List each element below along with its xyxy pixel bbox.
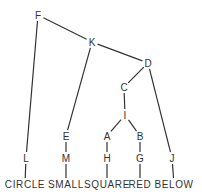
edge-i-a <box>111 120 121 132</box>
tree-node-k: K <box>89 37 96 48</box>
tree-node-e: E <box>63 131 70 142</box>
edge-f-l <box>27 21 38 152</box>
leaf-word-square: SQUARE <box>84 179 130 190</box>
edge-f-k <box>43 18 86 40</box>
edge-d-j <box>150 69 171 152</box>
edge-i-b <box>129 120 137 131</box>
edge-k-e <box>68 48 91 130</box>
tree-node-b: B <box>137 131 144 142</box>
tree-diagram: FKDCIABEMLHGJCIRCLESMALLSQUAREREDBELOW <box>0 0 202 196</box>
tree-node-c: C <box>120 82 127 93</box>
edge-l-circle <box>25 164 26 178</box>
edge-c-i <box>124 93 125 109</box>
leaf-word-red: RED <box>129 179 152 190</box>
tree-node-l: L <box>23 153 29 164</box>
leaf-word-below: BELOW <box>154 179 193 190</box>
tree-node-i: I <box>124 110 127 121</box>
tree-node-f: F <box>35 10 41 21</box>
edges <box>25 18 173 178</box>
edge-d-c <box>128 67 144 83</box>
edge-k-d <box>98 44 143 61</box>
tree-node-h: H <box>103 153 110 164</box>
leaf-word-circle: CIRCLE <box>5 179 45 190</box>
tree-node-j: J <box>170 153 175 164</box>
tree-node-a: A <box>104 131 111 142</box>
tree-node-d: D <box>144 58 151 69</box>
nodes: FKDCIABEMLHGJCIRCLESMALLSQUAREREDBELOW <box>5 10 194 190</box>
edge-j-below <box>173 164 174 178</box>
leaf-word-small: SMALL <box>48 179 84 190</box>
tree-node-g: G <box>136 153 144 164</box>
tree-node-m: M <box>62 153 70 164</box>
